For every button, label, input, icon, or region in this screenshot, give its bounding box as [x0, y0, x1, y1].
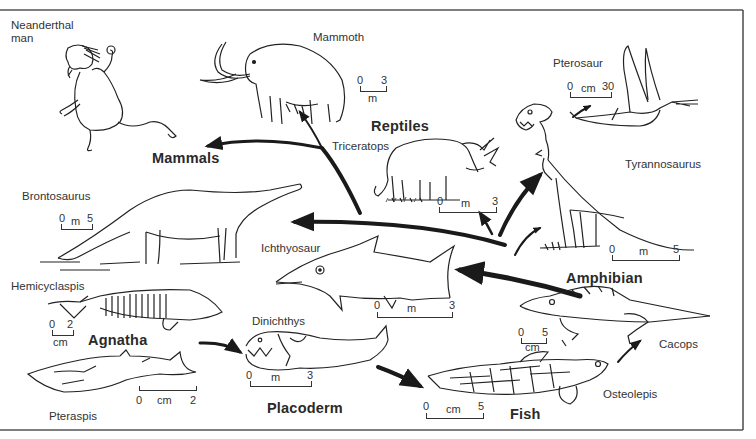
- diagram-artwork: [0, 0, 756, 439]
- label-pteraspis: Pteraspis: [49, 410, 97, 423]
- label-hemicyclaspis: Hemicyclaspis: [11, 280, 85, 293]
- group-label-placoderm: Placoderm: [267, 400, 343, 416]
- mammoth-illustration: [200, 42, 345, 124]
- dinichthys-illustration: [246, 326, 388, 370]
- triceratops-illustration: [374, 138, 498, 202]
- group-label-mammals: Mammals: [152, 150, 220, 166]
- label-tyrannosaurus: Tyrannosaurus: [625, 158, 701, 171]
- group-label-amphibian: Amphibian: [566, 270, 643, 286]
- osteolepis-illustration: [428, 352, 608, 404]
- label-ichthyosaur: Ichthyosaur: [261, 242, 320, 255]
- group-label-fish: Fish: [510, 406, 541, 422]
- group-label-reptiles: Reptiles: [371, 118, 429, 134]
- tyrannosaurus-illustration: [516, 104, 694, 250]
- label-mammoth: Mammoth: [313, 31, 364, 44]
- cacops-illustration: [520, 286, 710, 346]
- neanderthal-illustration: [60, 45, 176, 151]
- label-neanderthal-line2: man: [11, 32, 33, 45]
- evolution-diagram: Mammals Reptiles Amphibian Agnatha Placo…: [0, 0, 756, 439]
- label-pterosaur: Pterosaur: [553, 57, 603, 70]
- label-cacops: Cacops: [659, 338, 698, 351]
- label-osteolepis: Osteolepis: [603, 388, 657, 401]
- label-brontosaurus: Brontosaurus: [22, 190, 90, 203]
- label-triceratops: Triceratops: [332, 140, 389, 153]
- frame: [0, 10, 743, 430]
- label-dinichthys: Dinichthys: [252, 315, 305, 328]
- hemicyclaspis-illustration: [48, 290, 222, 330]
- label-neanderthal: Neanderthal: [11, 19, 74, 32]
- group-label-agnatha: Agnatha: [88, 332, 147, 348]
